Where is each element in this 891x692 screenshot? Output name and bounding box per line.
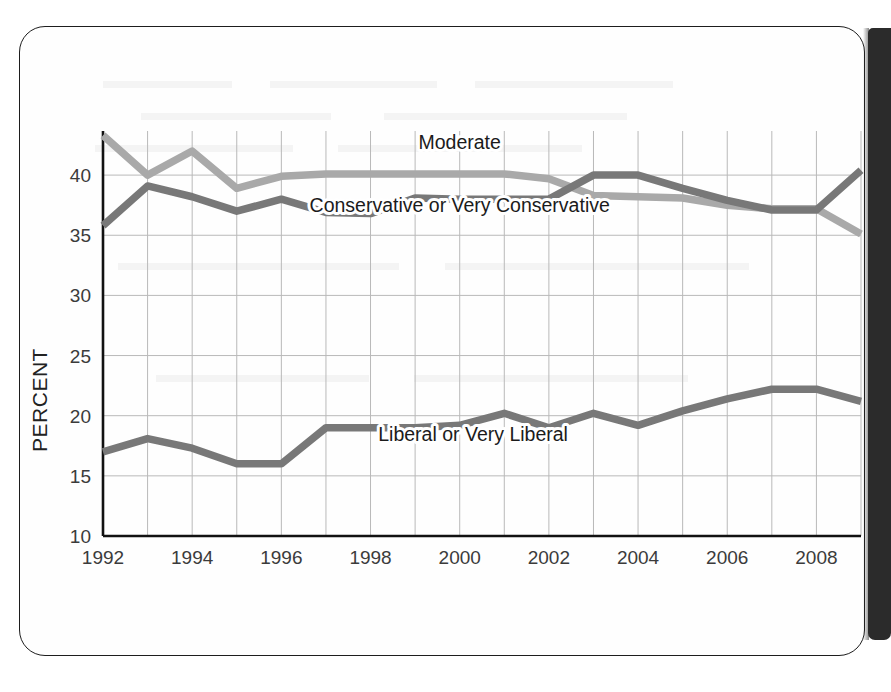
x-tick-label: 2000 (439, 547, 481, 568)
y-tick-label: 15 (70, 466, 91, 487)
x-tick-label: 1996 (260, 547, 302, 568)
y-tick-label: 40 (70, 165, 91, 186)
chart-canvas: 10152025303540 1992199419961998200020022… (0, 0, 891, 692)
screenshot-root: 10152025303540 1992199419961998200020022… (0, 0, 891, 692)
x-tick-label: 2008 (795, 547, 837, 568)
x-gridlines (103, 131, 861, 536)
series-label-liberal-or-very-liberal: Liberal or Very Liberal (378, 423, 568, 445)
axis-lines (103, 131, 861, 536)
series-label-moderate: Moderate (419, 131, 501, 153)
y-axis-title: PERCENT (28, 348, 51, 452)
y-tick-label: 20 (70, 406, 91, 427)
y-tick-label: 10 (70, 526, 91, 547)
x-axis-tick-labels: 199219941996199820002002200420062008 (82, 547, 838, 568)
line-chart: 10152025303540 1992199419961998200020022… (0, 0, 891, 692)
x-tick-label: 1998 (349, 547, 391, 568)
x-tick-label: 2002 (528, 547, 570, 568)
series-label-conservative-or-very-conservative: Conservative or Very Conservative (310, 194, 610, 216)
y-axis-tick-labels: 10152025303540 (70, 165, 91, 547)
y-tick-label: 25 (70, 346, 91, 367)
y-tick-label: 35 (70, 225, 91, 246)
x-tick-label: 2004 (617, 547, 660, 568)
x-tick-label: 2006 (706, 547, 748, 568)
y-gridlines (103, 175, 861, 536)
y-tick-label: 30 (70, 285, 91, 306)
x-tick-label: 1992 (82, 547, 124, 568)
x-tick-label: 1994 (171, 547, 214, 568)
series-lines (103, 135, 861, 463)
